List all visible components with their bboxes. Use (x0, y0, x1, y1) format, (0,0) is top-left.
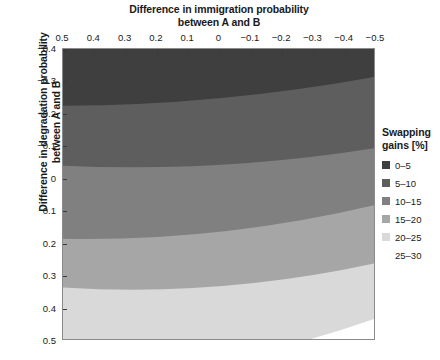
legend-item-label: 0–5 (395, 160, 411, 171)
x-tick-mark (374, 49, 375, 53)
x-tick-label: 0.3 (118, 32, 131, 43)
legend-item-label: 10–15 (395, 196, 421, 207)
legend-swatch-icon (382, 161, 390, 169)
legend-title-line1: Swapping (382, 126, 440, 139)
legend-title: Swapping gains [%] (382, 126, 440, 151)
x-tick-mark (94, 49, 95, 53)
x-tick-mark (126, 49, 127, 53)
x-tick-label: −0.5 (366, 32, 385, 43)
x-tick-label: 0.4 (87, 32, 100, 43)
legend-item-label: 15–20 (395, 214, 421, 225)
legend-item[interactable]: 15–20 (382, 211, 440, 227)
y-tick-label: 0.3 (43, 270, 56, 281)
y-tick-label: 0.1 (43, 205, 56, 216)
x-axis-title-line1: Difference in immigration probability (62, 3, 376, 16)
y-tick-mark (63, 244, 67, 245)
x-tick-mark (220, 49, 221, 53)
y-tick-label: −0.1 (37, 140, 56, 151)
y-tick-mark (63, 146, 67, 147)
legend-item[interactable]: 25–30 (382, 247, 440, 263)
legend-swatch-icon (382, 233, 390, 241)
x-tick-mark (282, 49, 283, 53)
x-axis-title-line2: between A and B (62, 16, 376, 29)
legend-item[interactable]: 5–10 (382, 175, 440, 191)
y-tick-label: 0.2 (43, 237, 56, 248)
legend-entries: 0–55–1010–1515–2020–2525–30 (382, 157, 440, 263)
legend-item-label: 5–10 (395, 178, 416, 189)
x-tick-mark (251, 49, 252, 53)
legend-item[interactable]: 20–25 (382, 229, 440, 245)
y-tick-label: −0.2 (37, 107, 56, 118)
x-tick-mark (188, 49, 189, 53)
x-tick-mark (345, 49, 346, 53)
legend-item-label: 20–25 (395, 232, 421, 243)
x-tick-label: 0.1 (181, 32, 194, 43)
x-tick-label: 0 (216, 32, 221, 43)
y-tick-label: −0.4 (37, 43, 56, 54)
legend-swatch-icon (382, 251, 390, 259)
y-tick-label: 0.4 (43, 302, 56, 313)
x-tick-label: −0.1 (240, 32, 259, 43)
x-tick-mark (313, 49, 314, 53)
legend-item[interactable]: 0–5 (382, 157, 440, 173)
x-tick-label: −0.2 (272, 32, 291, 43)
legend-item[interactable]: 10–15 (382, 193, 440, 209)
x-axis-tick-labels: 0.50.40.30.20.10−0.1−0.2−0.3−0.4−0.5 (62, 32, 375, 45)
y-tick-mark (63, 211, 67, 212)
y-tick-label: 0 (51, 172, 56, 183)
y-tick-mark (63, 276, 67, 277)
legend-swatch-icon (382, 179, 390, 187)
y-tick-mark (63, 50, 67, 51)
x-tick-mark (157, 49, 158, 53)
y-tick-mark (63, 81, 67, 82)
legend: Swapping gains [%] 0–55–1010–1515–2020–2… (382, 126, 440, 265)
y-tick-mark (63, 114, 67, 115)
x-tick-label: 0.2 (149, 32, 162, 43)
contour-plot-area (62, 48, 375, 340)
legend-item-label: 25–30 (395, 250, 421, 261)
contour-bands (63, 49, 375, 340)
x-tick-label: −0.4 (334, 32, 353, 43)
x-axis-title: Difference in immigration probability be… (62, 3, 376, 28)
y-axis-tick-labels: −0.4−0.3−0.2−0.100.10.20.30.40.5 (22, 48, 56, 340)
legend-swatch-icon (382, 215, 390, 223)
y-tick-label: −0.3 (37, 75, 56, 86)
x-tick-label: −0.3 (303, 32, 322, 43)
legend-title-line2: gains [%] (382, 139, 440, 152)
y-tick-mark (63, 179, 67, 180)
legend-swatch-icon (382, 197, 390, 205)
y-tick-label: 0.5 (43, 335, 56, 346)
y-tick-mark (63, 339, 67, 340)
y-tick-mark (63, 309, 67, 310)
